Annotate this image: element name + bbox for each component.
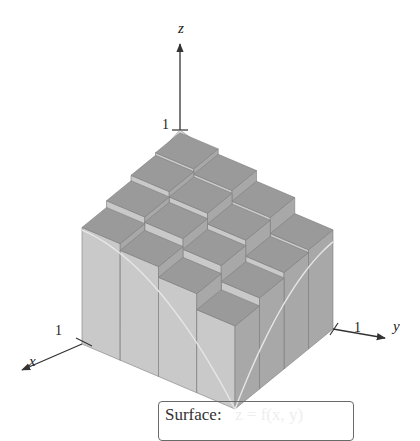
y-tick-label: 1	[354, 320, 361, 336]
block-left-face	[120, 250, 158, 376]
surface-caption-box: Surface: z = f(x, y)	[158, 401, 354, 441]
surface-caption-label: Surface:	[165, 405, 222, 425]
z-axis-label: z	[178, 20, 184, 37]
z-tick-label: 1	[162, 117, 169, 133]
x-tick-label: 1	[55, 323, 62, 339]
block-right-face	[309, 230, 334, 349]
y-axis-label: y	[393, 318, 400, 335]
block-left-face	[197, 310, 235, 409]
block-left-face	[82, 227, 120, 360]
x-axis-label: x	[29, 353, 36, 370]
block-right-face	[284, 253, 309, 369]
surface-caption-value: z = f(x, y)	[235, 405, 303, 425]
